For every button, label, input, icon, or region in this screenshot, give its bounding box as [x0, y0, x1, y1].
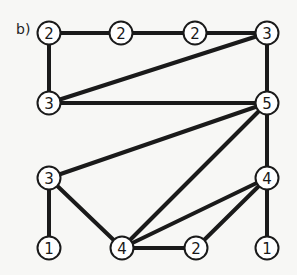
graph-figure: b) 222335341421 — [0, 0, 297, 275]
node-label: 4 — [117, 240, 127, 258]
graph-edge — [196, 178, 267, 248]
graph-edge — [49, 33, 267, 103]
graph-node: 3 — [38, 167, 61, 190]
node-label: 4 — [262, 170, 272, 188]
node-label: 2 — [116, 25, 126, 43]
graph-node: 1 — [256, 237, 279, 260]
graph-node: 2 — [185, 237, 208, 260]
graph-node: 4 — [111, 237, 134, 260]
node-label: 1 — [44, 240, 54, 258]
graph-edge — [49, 103, 267, 178]
node-label: 1 — [262, 240, 272, 258]
graph-edge — [122, 103, 267, 248]
node-label: 3 — [44, 170, 54, 188]
graph-node: 2 — [184, 22, 207, 45]
graph-node: 2 — [38, 22, 61, 45]
graph-canvas: 222335341421 — [0, 0, 297, 275]
node-label: 3 — [44, 95, 54, 113]
node-label: 5 — [262, 95, 272, 113]
graph-node: 3 — [256, 22, 279, 45]
graph-edge — [49, 178, 122, 248]
figure-label: b) — [16, 21, 30, 37]
graph-node: 4 — [256, 167, 279, 190]
node-label: 3 — [262, 25, 272, 43]
node-label: 2 — [191, 240, 201, 258]
edges-layer — [49, 33, 267, 248]
graph-node: 5 — [256, 92, 279, 115]
node-label: 2 — [190, 25, 200, 43]
graph-node: 3 — [38, 92, 61, 115]
graph-node: 2 — [110, 22, 133, 45]
graph-node: 1 — [38, 237, 61, 260]
node-label: 2 — [44, 25, 54, 43]
